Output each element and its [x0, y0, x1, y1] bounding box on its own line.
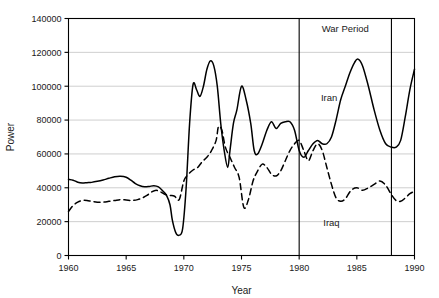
axes-box [69, 19, 415, 256]
x-tick-label: 1970 [174, 263, 194, 273]
chart-annotations: War PeriodIranIraq [321, 23, 369, 228]
x-tick-label: 1980 [289, 263, 309, 273]
power-vs-year-chart: 020000400006000080000100000120000140000 … [0, 0, 439, 298]
x-tick-label: 1975 [231, 263, 251, 273]
y-tick-label: 20000 [36, 217, 61, 227]
plot-frame [69, 19, 415, 256]
y-tick-label: 120000 [31, 48, 61, 58]
iraq-label-label: Iraq [323, 217, 339, 228]
y-axis-title: Power [5, 122, 16, 151]
y-tick-label: 140000 [31, 14, 61, 24]
x-axis-ticks: 1960196519701975198019851990 [58, 256, 424, 273]
x-axis-title: Year [231, 285, 252, 296]
gridlines [69, 19, 415, 222]
y-tick-label: 60000 [36, 149, 61, 159]
y-tick-label: 40000 [36, 183, 61, 193]
series-line-iran [69, 59, 415, 235]
y-tick-label: 100000 [31, 82, 61, 92]
x-tick-label: 1990 [404, 263, 424, 273]
x-tick-label: 1985 [347, 263, 367, 273]
war-period-markers [299, 19, 391, 256]
war-period-label: War Period [322, 23, 369, 34]
data-series [69, 59, 415, 235]
chart-canvas: 020000400006000080000100000120000140000 … [0, 0, 439, 298]
x-tick-label: 1960 [58, 263, 78, 273]
series-line-iraq [69, 126, 415, 211]
y-axis-ticks: 020000400006000080000100000120000140000 [31, 14, 68, 261]
x-tick-label: 1965 [116, 263, 136, 273]
iran-label-label: Iran [321, 92, 337, 103]
y-tick-label: 0 [56, 251, 61, 261]
y-tick-label: 80000 [36, 115, 61, 125]
